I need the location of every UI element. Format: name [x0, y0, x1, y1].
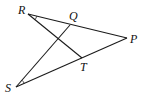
angle-mark-r	[35, 16, 37, 19]
point-label-s: S	[5, 81, 11, 95]
angle-mark-s	[22, 80, 24, 83]
segments	[16, 14, 127, 87]
point-label-t: T	[80, 60, 88, 74]
segment-sq	[16, 25, 70, 87]
angle-marks	[22, 16, 37, 83]
point-label-r: R	[17, 3, 26, 17]
point-label-p: P	[129, 32, 138, 46]
point-label-q: Q	[69, 9, 78, 23]
geometry-diagram: RQPTS	[0, 0, 143, 97]
segment-sp	[16, 38, 127, 87]
